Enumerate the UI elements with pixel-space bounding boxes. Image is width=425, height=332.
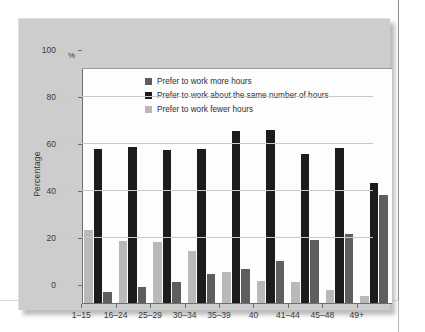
bar bbox=[163, 150, 172, 303]
bar bbox=[103, 292, 112, 303]
gridline bbox=[63, 96, 373, 97]
bar bbox=[222, 272, 231, 303]
bar bbox=[335, 148, 344, 303]
page-margin-rule-lower bbox=[398, 300, 399, 332]
gridline bbox=[63, 237, 373, 238]
x-tick-mark bbox=[219, 304, 220, 308]
legend-swatch-icon bbox=[145, 78, 152, 85]
bar bbox=[370, 183, 379, 303]
y-tick-label: 60 bbox=[22, 139, 56, 149]
y-axis-unit-symbol: % bbox=[68, 51, 75, 60]
y-tick-label: 40 bbox=[22, 186, 56, 196]
chart-legend: Prefer to work more hoursPrefer to work … bbox=[145, 76, 329, 118]
legend-item: Prefer to work more hours bbox=[145, 76, 329, 88]
bar bbox=[266, 130, 275, 303]
bar bbox=[172, 282, 181, 303]
bar bbox=[379, 195, 388, 303]
x-axis-line bbox=[82, 303, 392, 304]
bar bbox=[360, 296, 369, 303]
y-tick-label: 20 bbox=[22, 233, 56, 243]
x-tick-mark bbox=[253, 304, 254, 308]
bar bbox=[301, 154, 310, 303]
bar bbox=[207, 274, 216, 303]
legend-item-label: Prefer to work more hours bbox=[157, 77, 252, 86]
y-tick-label: 0 bbox=[22, 280, 56, 290]
bar bbox=[326, 290, 335, 303]
y-tick-label: 100 bbox=[22, 45, 56, 55]
bar bbox=[197, 149, 206, 303]
bar bbox=[94, 149, 103, 303]
x-tick-mark bbox=[357, 304, 358, 308]
gridline bbox=[63, 143, 373, 144]
bar bbox=[84, 230, 93, 303]
x-tick-label: 49+ bbox=[337, 310, 377, 320]
bar bbox=[276, 261, 285, 303]
bar bbox=[138, 287, 147, 303]
bar bbox=[291, 282, 300, 303]
legend-swatch-icon bbox=[145, 106, 152, 113]
x-tick-mark bbox=[150, 304, 151, 308]
gridline bbox=[63, 190, 373, 191]
x-tick-mark bbox=[322, 304, 323, 308]
bar bbox=[119, 241, 128, 303]
y-tick-label: 80 bbox=[22, 92, 56, 102]
chart-panel: % Percentage 020406080100 1–1516–2425–29… bbox=[18, 18, 390, 310]
x-tick-mark bbox=[81, 304, 82, 308]
x-tick-mark bbox=[185, 304, 186, 308]
bar bbox=[241, 269, 250, 303]
bar bbox=[128, 147, 137, 303]
bar bbox=[153, 242, 162, 303]
bar bbox=[310, 240, 319, 303]
bar bbox=[232, 131, 241, 303]
x-tick-mark bbox=[288, 304, 289, 308]
x-tick-mark bbox=[116, 304, 117, 308]
bar bbox=[257, 281, 266, 303]
y-tick-mark bbox=[78, 50, 82, 51]
legend-item-label: Prefer to work fewer hours bbox=[157, 105, 253, 114]
bar bbox=[188, 251, 197, 303]
legend-item: Prefer to work fewer hours bbox=[145, 104, 329, 116]
page-margin-rule bbox=[398, 0, 399, 300]
bar bbox=[345, 234, 354, 303]
